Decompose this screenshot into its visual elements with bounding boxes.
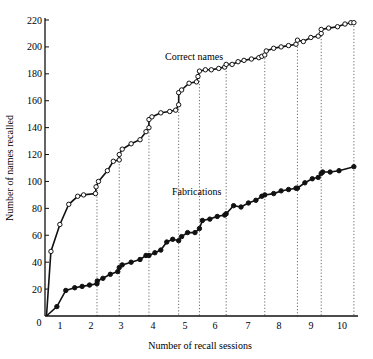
data-point-marker	[242, 58, 246, 62]
data-point-marker	[168, 109, 172, 113]
data-point-marker	[197, 226, 201, 230]
data-point-marker	[87, 283, 91, 287]
data-point-marker	[319, 27, 323, 31]
data-point-marker	[58, 222, 62, 226]
data-point-marker	[326, 26, 330, 30]
data-point-marker	[352, 20, 356, 24]
data-point-marker	[187, 81, 191, 85]
data-point-marker	[96, 179, 100, 183]
data-point-marker	[200, 218, 204, 222]
data-point-marker	[117, 152, 121, 156]
data-point-marker	[147, 125, 151, 129]
data-point-marker	[120, 147, 124, 151]
series-line	[47, 23, 354, 316]
y-tick-label: 120	[27, 149, 42, 160]
y-tick-label: 20	[32, 284, 42, 295]
data-point-marker	[73, 286, 77, 290]
data-point-marker	[254, 198, 258, 202]
data-point-marker	[120, 263, 124, 267]
data-point-marker	[64, 288, 68, 292]
x-tick-label: 7	[246, 320, 251, 331]
x-tick-label: 1	[58, 320, 63, 331]
data-point-marker	[320, 170, 324, 174]
data-point-marker	[224, 62, 228, 66]
y-tick-label: 160	[27, 95, 42, 106]
data-point-marker	[153, 251, 157, 255]
x-tick-label: 6	[213, 320, 218, 331]
x-tick-label: 3	[119, 320, 124, 331]
data-point-marker	[159, 248, 163, 252]
data-point-marker	[310, 177, 314, 181]
y-tick-label: 180	[27, 68, 42, 79]
data-point-marker	[230, 62, 234, 66]
data-point-marker	[279, 189, 283, 193]
data-point-marker	[279, 45, 283, 49]
data-point-marker	[179, 88, 183, 92]
data-point-marker	[303, 181, 307, 185]
x-tick-label: 2	[89, 320, 94, 331]
y-axis-label: Number of names recalled	[4, 115, 15, 221]
data-point-marker	[80, 284, 84, 288]
y-tick-label: 40	[32, 257, 42, 268]
data-point-marker	[117, 158, 121, 162]
data-point-marker	[271, 191, 275, 195]
data-point-marker	[165, 240, 169, 244]
x-tick-label: 9	[309, 320, 314, 331]
data-point-marker	[105, 168, 109, 172]
data-point-marker	[316, 175, 320, 179]
data-point-marker	[67, 202, 71, 206]
data-point-marker	[171, 237, 175, 241]
data-point-marker	[176, 238, 180, 242]
data-point-marker	[159, 111, 163, 115]
origin-label: 0	[37, 317, 42, 328]
data-point-marker	[295, 38, 299, 42]
x-tick-label: 4	[151, 320, 156, 331]
data-point-marker	[271, 46, 275, 50]
data-point-marker	[217, 66, 221, 70]
data-point-marker	[328, 170, 332, 174]
data-point-marker	[111, 159, 115, 163]
y-tick-label: 200	[27, 41, 42, 52]
data-point-marker	[286, 43, 290, 47]
data-point-marker	[246, 201, 250, 205]
data-point-marker	[263, 193, 267, 197]
y-tick-label: 80	[32, 203, 42, 214]
data-point-marker	[81, 193, 85, 197]
x-tick-label: 10	[337, 320, 347, 331]
data-point-marker	[94, 185, 98, 189]
data-point-marker	[224, 212, 228, 216]
data-point-marker	[49, 249, 53, 253]
data-point-marker	[108, 272, 112, 276]
y-tick-label: 100	[27, 176, 42, 187]
y-axis-ticks: 20406080100120140160180200220	[27, 15, 49, 295]
y-tick-label: 220	[27, 15, 42, 26]
y-tick-label: 60	[32, 230, 42, 241]
y-tick-label: 140	[27, 122, 42, 133]
data-point-marker	[249, 57, 253, 61]
data-point-marker	[231, 203, 235, 207]
data-point-marker	[343, 22, 347, 26]
data-point-marker	[335, 25, 339, 29]
data-point-marker	[197, 69, 201, 73]
x-axis-label: Number of recall sessions	[148, 340, 252, 351]
x-tick-label: 5	[183, 320, 188, 331]
data-point-marker	[75, 194, 79, 198]
data-point-marker	[196, 74, 200, 78]
data-point-marker	[179, 234, 183, 238]
data-point-marker	[264, 49, 268, 53]
data-point-marker	[138, 257, 142, 261]
data-point-marker	[55, 304, 59, 308]
data-point-marker	[138, 138, 142, 142]
x-tick-label: 8	[277, 320, 282, 331]
data-point-marker	[101, 276, 105, 280]
data-point-marker	[173, 108, 177, 112]
data-point-marker	[337, 168, 341, 172]
axes	[45, 18, 358, 316]
data-point-marker	[239, 205, 243, 209]
data-point-marker	[236, 60, 240, 64]
data-point-marker	[301, 39, 305, 43]
data-point-marker	[147, 253, 151, 257]
data-point-marker	[309, 35, 313, 39]
data-point-marker	[352, 164, 356, 168]
data-point-marker	[176, 103, 180, 107]
